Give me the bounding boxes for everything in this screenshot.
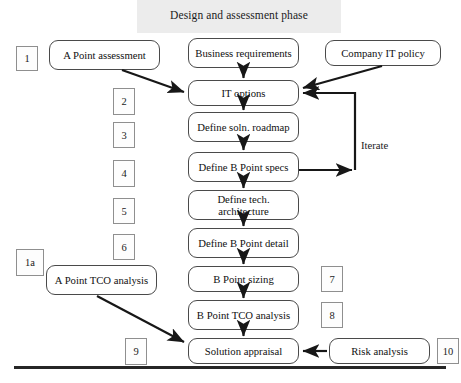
- bottom-divider: [14, 366, 446, 369]
- number-tag-8: 8: [321, 302, 343, 328]
- process-box-b-point-tco-analysis[interactable]: B Point TCO analysis: [188, 300, 299, 330]
- number-tag-2: 2: [113, 88, 135, 115]
- flowchart-canvas: Design and assessment phase: [0, 0, 461, 383]
- process-box-company-it-policy[interactable]: Company IT policy: [325, 40, 441, 66]
- iterate-label: Iterate: [361, 139, 388, 151]
- number-tag-9: 9: [125, 338, 147, 365]
- number-tag-10: 10: [437, 338, 459, 364]
- process-box-b-point-sizing[interactable]: B Point sizing: [188, 266, 299, 292]
- process-box-a-point-assessment[interactable]: A Point assessment: [49, 40, 160, 70]
- number-tag-5: 5: [113, 198, 135, 224]
- number-tag-3: 3: [113, 122, 135, 148]
- process-box-a-point-tco-analysis[interactable]: A Point TCO analysis: [46, 265, 157, 295]
- number-tag-4: 4: [113, 160, 135, 187]
- process-box-business-requirements[interactable]: Business requirements: [188, 38, 299, 68]
- arrow-a-point-tco-to-appraisal: [97, 296, 184, 342]
- process-box-define-soln-roadmap[interactable]: Define soln. roadmap: [188, 112, 299, 142]
- number-tag-6: 6: [113, 234, 135, 260]
- process-box-risk-analysis[interactable]: Risk analysis: [329, 338, 430, 364]
- number-tag-1: 1: [16, 46, 38, 71]
- process-box-define-b-point-specs[interactable]: Define B Point specs: [188, 152, 299, 182]
- diagram-title: Design and assessment phase: [137, 9, 341, 21]
- process-box-it-options[interactable]: IT options: [188, 80, 299, 106]
- arrow-iterate-loop-return: [303, 93, 355, 170]
- process-box-solution-appraisal[interactable]: Solution appraisal: [188, 338, 299, 364]
- process-box-define-b-point-detail[interactable]: Define B Point detail: [188, 228, 299, 258]
- number-tag-7: 7: [321, 266, 343, 292]
- number-tag-1a: 1a: [16, 249, 44, 276]
- arrow-policy-to-options: [303, 66, 382, 88]
- process-box-define-tech-architecture[interactable]: Define tech. architecture: [188, 190, 299, 220]
